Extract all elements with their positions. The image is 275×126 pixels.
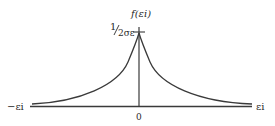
x-right-label: εi xyxy=(256,101,264,112)
x-left-label: −εi xyxy=(7,101,24,112)
peak-value-label: 1 2σε xyxy=(110,21,135,38)
density-curve-left xyxy=(32,33,139,104)
peak-numerator: 1 xyxy=(110,21,116,32)
density-curve-right xyxy=(139,33,252,104)
laplace-density-diagram: f(εi) 1 2σε −εi εi 0 xyxy=(0,0,275,126)
origin-label: 0 xyxy=(136,112,142,122)
y-axis-label: f(εi) xyxy=(130,8,151,19)
peak-denominator: 2σε xyxy=(118,28,135,38)
